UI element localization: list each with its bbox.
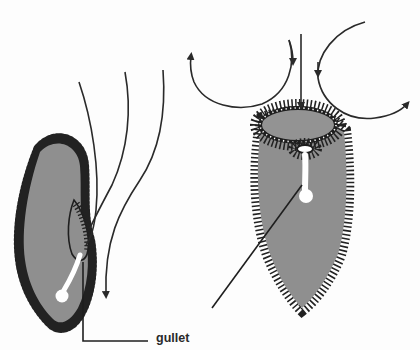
- right-mouth: [297, 145, 313, 153]
- vortex-arrow-right: [318, 22, 407, 119]
- diagram-canvas: gullet: [0, 0, 420, 350]
- flow-arrow-3: [106, 70, 164, 295]
- right-food-vacuole: [299, 189, 313, 203]
- diagram-svg: [0, 0, 420, 350]
- right-oral-funnel: [260, 108, 336, 142]
- left-organism: [21, 140, 90, 326]
- left-food-vacuole: [56, 290, 69, 303]
- right-flow-arrows: [190, 22, 407, 119]
- right-organism: [255, 104, 348, 310]
- gullet-label: gullet: [156, 331, 189, 345]
- vortex-arrow-left: [190, 40, 291, 107]
